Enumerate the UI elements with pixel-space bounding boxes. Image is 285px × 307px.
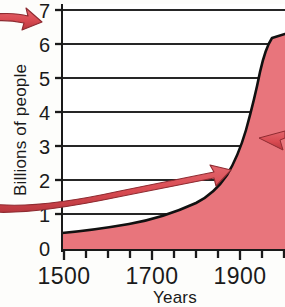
ytick-label-2: 2 — [39, 170, 50, 192]
xtick-label-1900: 1900 — [213, 263, 266, 289]
x-axis-title: Years — [153, 288, 197, 307]
arrow-to-seven-label — [0, 8, 42, 30]
ytick-label-0: 0 — [39, 238, 50, 260]
x-axis-ticks — [64, 250, 284, 260]
ytick-label-7: 7 — [39, 0, 50, 22]
chart-figure: 7 6 5 4 3 2 1 0 1500 1700 1900 Years Bil… — [0, 0, 285, 307]
ytick-label-3: 3 — [39, 136, 50, 158]
arrow-to-seven-label-shape — [0, 8, 42, 30]
chart-canvas: 7 6 5 4 3 2 1 0 1500 1700 1900 Years Bil… — [0, 0, 285, 307]
ytick-label-5: 5 — [39, 68, 50, 90]
xtick-label-1500: 1500 — [37, 263, 90, 289]
xtick-label-1700: 1700 — [125, 263, 178, 289]
ytick-label-4: 4 — [39, 102, 50, 124]
y-axis-title: Billions of people — [11, 64, 30, 196]
ytick-label-6: 6 — [39, 34, 50, 56]
